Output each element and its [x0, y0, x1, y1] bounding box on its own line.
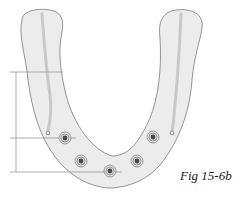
- right-mental-foramen-icon: [170, 131, 174, 135]
- implant-1-icon: [59, 132, 71, 144]
- implant-5-icon: [147, 131, 159, 143]
- implant-2-icon: [75, 155, 87, 167]
- left-mental-foramen-icon: [46, 131, 50, 135]
- figure-caption: Fig 15-6b: [180, 168, 232, 184]
- implant-4-icon: [131, 155, 143, 167]
- mandible-figure: Fig 15-6b: [0, 0, 249, 200]
- implant-3-icon: [104, 165, 116, 177]
